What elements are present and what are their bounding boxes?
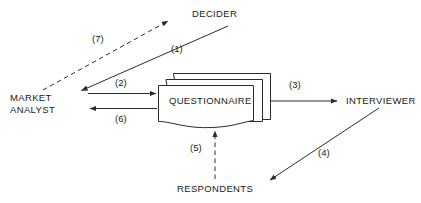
edge-4-line (270, 108, 379, 180)
edge-label-1: (1) (171, 43, 183, 54)
edge-label-4: (4) (318, 147, 330, 158)
edge-label-5: (5) (190, 142, 202, 153)
edge-label-7: (7) (92, 33, 104, 44)
edge-label-6: (6) (115, 113, 127, 124)
node-label-interviewer: INTERVIEWER (346, 95, 416, 107)
diagram-canvas: DECIDER MARKETANALYST INTERVIEWER RESPON… (0, 0, 421, 203)
node-label-questionnaire: QUESTIONNAIRE (169, 95, 252, 106)
node-label-decider: DECIDER (192, 8, 237, 20)
edge-label-2: (2) (115, 77, 127, 88)
node-label-market-analyst-line1: MARKET (10, 92, 52, 103)
edge-label-3: (3) (289, 79, 301, 90)
node-label-respondents: RESPONDENTS (177, 183, 253, 195)
node-label-market-analyst-line2: ANALYST (10, 104, 55, 115)
questionnaire-page-front (159, 86, 254, 128)
node-label-market-analyst: MARKETANALYST (10, 92, 55, 116)
